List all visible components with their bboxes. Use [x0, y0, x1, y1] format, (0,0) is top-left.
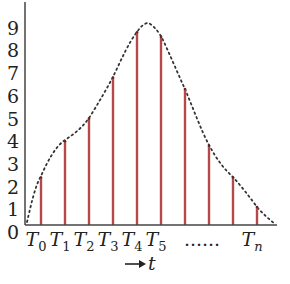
arrowhead-icon	[139, 260, 146, 268]
y-tick-label: 4	[7, 130, 19, 152]
y-tick-labels: 0123456789	[7, 17, 19, 243]
y-tick-label: 1	[7, 198, 19, 220]
x-tick-label: Tn	[241, 228, 262, 254]
y-tick-label: 8	[7, 39, 19, 61]
sampled-signal-figure: 0123456789 T0T1T2T3T4T5Tn ...... t	[0, 0, 290, 284]
sample-point	[40, 176, 43, 179]
x-tick-label: T3	[98, 228, 119, 254]
sample-point	[232, 176, 235, 179]
y-tick-label: 7	[7, 62, 19, 84]
x-axis-label: t	[148, 252, 156, 274]
sample-point	[160, 35, 163, 38]
sample-point	[64, 140, 67, 143]
x-tick-label: T1	[50, 228, 71, 254]
y-tick-label: 2	[7, 176, 19, 198]
x-ellipsis: ......	[184, 228, 220, 250]
sample-stems	[40, 31, 259, 225]
y-tick-label: 6	[7, 85, 19, 107]
x-tick-label: T2	[74, 228, 95, 254]
y-tick-label: 5	[7, 108, 19, 130]
y-tick-label: 0	[7, 221, 19, 243]
y-tick-label: 3	[7, 153, 19, 175]
sample-point	[112, 76, 115, 79]
time-axis-label: t	[125, 252, 156, 274]
x-tick-label: T4	[122, 228, 143, 254]
x-tick-label: T0	[26, 228, 47, 254]
x-tick-labels: T0T1T2T3T4T5Tn	[26, 228, 263, 254]
x-tick-label: T5	[146, 228, 167, 254]
sample-point	[136, 31, 139, 34]
sample-point	[184, 88, 187, 91]
sample-point	[88, 117, 91, 120]
sample-point	[256, 206, 259, 209]
sample-point	[208, 144, 211, 147]
y-tick-label: 9	[7, 17, 19, 39]
